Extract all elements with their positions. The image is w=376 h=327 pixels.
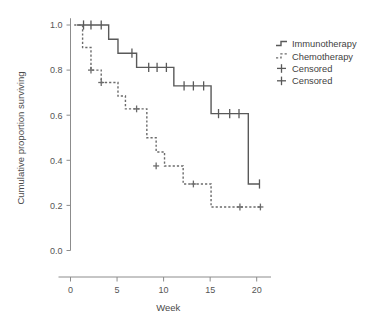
legend-label: Immunotherapy <box>292 39 357 49</box>
legend-label: Censored <box>292 64 332 74</box>
dashed-step-line-icon <box>276 54 287 58</box>
x-tick-label: 15 <box>205 285 215 295</box>
x-axis-title: Week <box>156 302 180 313</box>
y-tick-label: 1.0 <box>50 20 63 30</box>
axes: 0.00.20.40.60.81.005101520 <box>50 18 271 294</box>
survival-chart-figure: 0.00.20.40.60.81.005101520 Immunotherapy… <box>0 0 376 327</box>
chart-legend: ImmunotherapyChemotherapyCensoredCensore… <box>276 39 357 86</box>
legend-item-censored-2[interactable]: Censored <box>277 64 332 74</box>
data-series <box>74 20 263 210</box>
y-axis-title: Cumulative proportion surviving <box>15 71 26 204</box>
x-tick-label: 10 <box>159 285 169 295</box>
x-tick-label: 20 <box>252 285 262 295</box>
legend-item-chemotherapy-1[interactable]: Chemotherapy <box>276 52 353 62</box>
y-tick-label: 0.0 <box>50 246 63 256</box>
legend-label: Censored <box>292 76 332 86</box>
y-tick-label: 0.8 <box>50 65 63 75</box>
kaplan-meier-plot: 0.00.20.40.60.81.005101520 Immunotherapy… <box>0 0 376 327</box>
series-line-chemotherapy <box>74 25 260 207</box>
solid-step-line-icon <box>276 42 287 46</box>
y-tick-label: 0.6 <box>50 111 63 121</box>
y-tick-label: 0.2 <box>50 201 63 211</box>
x-tick-label: 0 <box>68 285 73 295</box>
y-tick-label: 0.4 <box>50 156 63 166</box>
legend-item-immunotherapy-0[interactable]: Immunotherapy <box>276 39 357 49</box>
legend-item-censored-3[interactable]: Censored <box>277 76 332 86</box>
legend-label: Chemotherapy <box>292 52 353 62</box>
x-tick-label: 5 <box>115 285 120 295</box>
series-line-immunotherapy <box>77 25 259 184</box>
